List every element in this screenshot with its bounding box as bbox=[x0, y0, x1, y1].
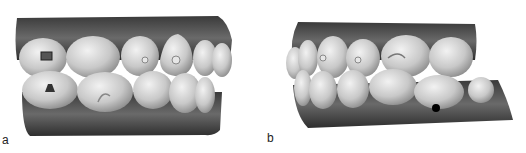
panel-a: a bbox=[0, 0, 263, 153]
dental-model-a-image bbox=[0, 0, 263, 153]
dental-model-b-image bbox=[263, 0, 526, 153]
panel-b: b bbox=[263, 0, 526, 153]
panel-label-a: a bbox=[2, 133, 9, 147]
panel-label-b: b bbox=[267, 131, 274, 145]
